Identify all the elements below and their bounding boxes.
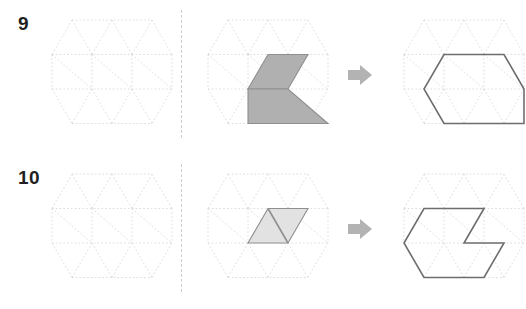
- worksheet-page: 9 10: [0, 0, 526, 309]
- grid-9-left: [40, 12, 190, 142]
- problem-9-middle-panel: [196, 12, 336, 142]
- panel-divider-10: [181, 164, 182, 292]
- grid-10-right: [392, 166, 526, 296]
- problem-10-right-panel: [392, 166, 526, 296]
- upper-parallelogram: [248, 55, 308, 90]
- arrow-right-icon-9: [346, 60, 376, 90]
- problem-row-10: 10: [0, 154, 526, 309]
- problem-9-left-panel: [40, 12, 180, 142]
- grid-10-left: [40, 166, 190, 296]
- problem-row-9: 9: [0, 0, 526, 155]
- grid-9-right: [392, 12, 526, 142]
- grid-9-middle: [196, 12, 346, 142]
- problem-9-right-panel: [392, 12, 526, 142]
- panel-divider-9: [181, 10, 182, 138]
- problem-number-10: 10: [18, 168, 40, 187]
- problem-number-9: 9: [18, 14, 29, 33]
- lower-trapezoid: [248, 89, 328, 124]
- grid-10-middle: [196, 166, 346, 296]
- problem-10-middle-panel: [196, 166, 336, 296]
- arrow-right-icon-10: [346, 214, 376, 244]
- problem-10-left-panel: [40, 166, 180, 296]
